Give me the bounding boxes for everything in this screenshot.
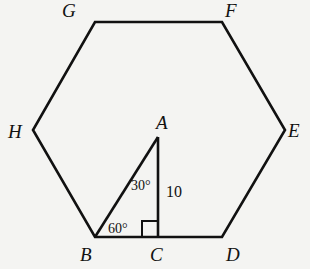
vertex-label-E: E <box>287 120 300 141</box>
geometry-diagram: G F E D B H A C 10 30° 60° <box>0 0 310 269</box>
side-length-AC: 10 <box>166 183 182 200</box>
vertex-label-D: D <box>225 244 240 265</box>
vertex-label-H: H <box>7 121 23 142</box>
vertex-label-F: F <box>224 0 237 21</box>
vertex-label-G: G <box>62 0 76 21</box>
vertex-label-B: B <box>80 244 92 265</box>
angle-label-B: 60° <box>108 221 128 236</box>
vertex-label-A: A <box>154 112 168 133</box>
angle-label-A: 30° <box>131 178 151 193</box>
vertex-label-C: C <box>150 244 163 265</box>
right-angle-marker <box>142 221 158 237</box>
